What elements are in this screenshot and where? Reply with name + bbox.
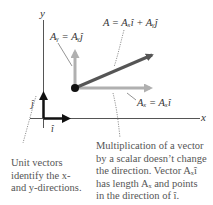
vector-origin-dot [71, 84, 79, 92]
unit-vectors-caption: Unit vectors identify the x- and y-direc… [11, 157, 101, 195]
caption-line: Multiplication of a vector [96, 140, 213, 153]
y-axis-label: y [39, 7, 45, 19]
caption-line: identify the x- [11, 170, 101, 183]
ax-leader-line [127, 93, 136, 100]
vector-ax-label: Aₓ = Aₓî [136, 97, 172, 108]
caption-line: by a scalar doesn’t change [96, 153, 213, 166]
x-axis-label: x [200, 111, 206, 123]
caption-line: Unit vectors [11, 157, 101, 170]
caption-line: the direction. Vector Aₓî [96, 165, 213, 178]
vector-a [75, 55, 152, 88]
vector-ay-label: Aᵧ = Aᵧĵ [49, 31, 84, 42]
i-hat-label: î [51, 123, 55, 134]
caption-line: and y-directions. [11, 182, 101, 195]
multiplication-dotted-leader [113, 93, 120, 138]
unit-vectors-dotted-leader [23, 96, 36, 143]
multiplication-caption: Multiplication of a vector by a scalar d… [96, 140, 213, 203]
caption-line: in the direction of î. [96, 190, 213, 203]
a-dotted-leader [114, 30, 124, 67]
vector-a-label: A = Aₓî + Aᵧĵ [102, 17, 159, 28]
caption-line: has length Aₓ and points [96, 178, 213, 191]
ay-leader-line [58, 43, 72, 66]
